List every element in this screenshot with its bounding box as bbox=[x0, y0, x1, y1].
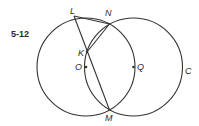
label-l: L bbox=[70, 6, 75, 16]
label-m: M bbox=[105, 113, 113, 123]
label-c: C bbox=[185, 66, 192, 76]
point-o bbox=[85, 66, 88, 69]
label-q: Q bbox=[137, 62, 144, 72]
label-o: O bbox=[75, 62, 82, 72]
geometry-diagram: 5-12 L N K O Q M C bbox=[0, 0, 199, 126]
label-k: K bbox=[78, 48, 85, 58]
label-n: N bbox=[105, 8, 112, 18]
point-q bbox=[132, 66, 135, 69]
figure-label: 5-12 bbox=[11, 29, 29, 39]
point-k bbox=[86, 51, 88, 53]
segment-nk bbox=[87, 24, 110, 52]
